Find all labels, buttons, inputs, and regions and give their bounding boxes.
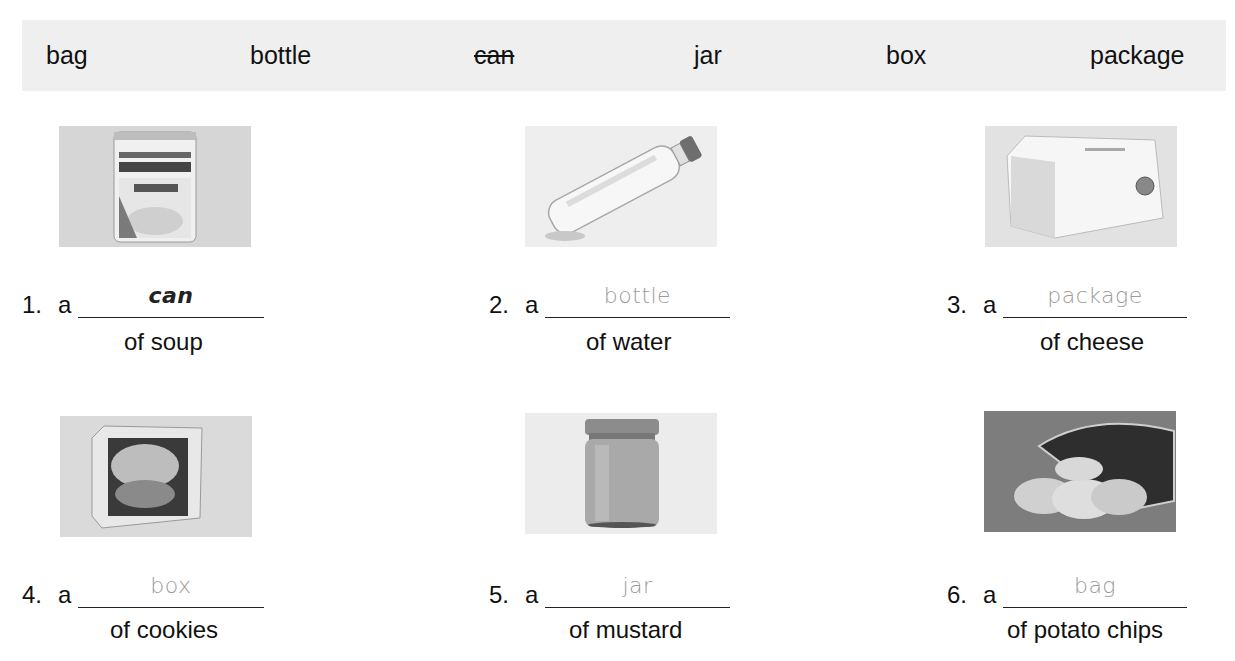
bottle-icon: [525, 126, 717, 247]
item-phrase-3: of cheese: [1040, 328, 1144, 356]
article-a: a: [58, 291, 71, 318]
word-bank: bag bottle can jar box package: [22, 20, 1226, 91]
word-bank-item-can-crossed-out: can: [474, 40, 514, 70]
article-a: a: [983, 581, 996, 608]
article-a: a: [58, 581, 71, 608]
word-bank-item-jar: jar: [694, 40, 722, 70]
cookie-box-photo: [60, 416, 252, 537]
jar-icon: [525, 413, 717, 534]
item-phrase-2: of water: [586, 328, 671, 356]
word-bank-item-bottle: bottle: [250, 40, 311, 70]
word-bank-item-bag: bag: [46, 40, 88, 70]
can-icon: [59, 126, 251, 247]
bag-icon: [984, 411, 1176, 532]
answer-text-5: jar: [545, 573, 730, 598]
answer-text-4: box: [78, 573, 264, 598]
water-bottle-photo: [525, 126, 717, 247]
answer-text-1-example: can: [78, 283, 264, 308]
item-number-6: 6.a: [947, 581, 996, 609]
potato-chip-bag-photo: [984, 411, 1176, 532]
answer-blank-2[interactable]: bottle: [545, 289, 730, 318]
item-number-2: 2.a: [489, 291, 538, 319]
article-a: a: [525, 581, 538, 608]
answer-blank-3[interactable]: package: [1003, 289, 1187, 318]
mustard-jar-photo: [525, 413, 717, 534]
can-of-pea-soup-photo: [59, 126, 251, 247]
item-number-3: 3.a: [947, 291, 996, 319]
item-number-1: 1.a: [22, 291, 71, 319]
answer-blank-5[interactable]: jar: [545, 579, 730, 608]
answer-text-6: bag: [1003, 573, 1187, 598]
article-a: a: [525, 291, 538, 318]
word-bank-item-package: package: [1090, 40, 1185, 70]
answer-blank-4[interactable]: box: [78, 579, 264, 608]
answer-blank-6[interactable]: bag: [1003, 579, 1187, 608]
item-number-5: 5.a: [489, 581, 538, 609]
package-icon: [985, 126, 1177, 247]
answer-text-3: package: [1003, 283, 1187, 308]
item-number-4: 4.a: [22, 581, 71, 609]
article-a: a: [983, 291, 996, 318]
item-phrase-5: of mustard: [569, 616, 682, 644]
box-icon: [60, 416, 252, 537]
answer-blank-1[interactable]: can: [78, 289, 264, 318]
word-bank-item-box: box: [886, 40, 926, 70]
answer-text-2: bottle: [545, 283, 730, 308]
item-phrase-6: of potato chips: [1007, 616, 1163, 644]
cheese-package-photo: [985, 126, 1177, 247]
item-phrase-4: of cookies: [110, 616, 218, 644]
item-phrase-1: of soup: [124, 328, 203, 356]
